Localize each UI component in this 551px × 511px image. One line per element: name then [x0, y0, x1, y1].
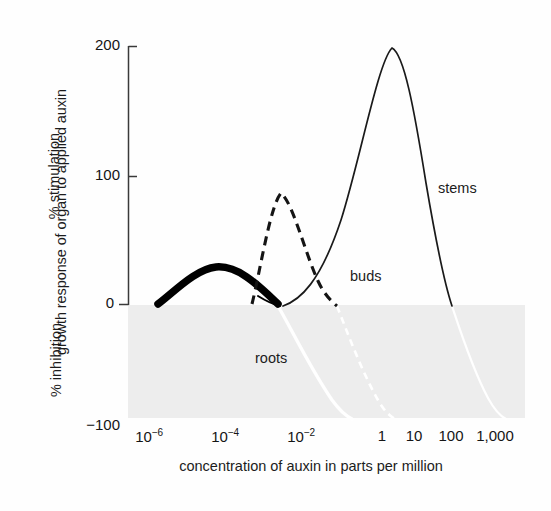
x-tick-label-1e-6: 10−6: [119, 427, 179, 445]
x-tick-exponent-1e-6: −6: [152, 427, 163, 438]
x-tick-label-1000: 1,000: [466, 427, 524, 444]
x-tick-mantissa-1e-6: 10: [135, 428, 152, 445]
x-tick-mantissa-1e-4: 10: [211, 428, 228, 445]
y-tick-label-0: 0: [62, 294, 114, 311]
y-axis-subtitle-stimulation: % stimulation: [46, 96, 62, 256]
x-tick-mantissa-1e-2: 10: [287, 428, 304, 445]
x-tick-label-1e-2: 10−2: [271, 427, 331, 445]
series-label-stems: stems: [438, 180, 477, 196]
series-label-roots: roots: [255, 350, 287, 366]
y-tick-label-200: 200: [62, 36, 120, 53]
chart-figure: growth response of organ to applied auxi…: [0, 0, 551, 511]
x-tick-exponent-1e-2: −2: [304, 427, 315, 438]
x-tick-label-1e-4: 10−4: [195, 427, 255, 445]
inhibition-shaded-region: [128, 305, 525, 418]
x-axis-title: concentration of auxin in parts per mill…: [96, 458, 526, 474]
x-tick-exponent-1e-4: −4: [228, 427, 239, 438]
series-label-buds: buds: [350, 268, 381, 284]
y-tick-label-100: 100: [62, 166, 120, 183]
y-axis-subtitle-inhibition: % inhibition: [48, 290, 64, 430]
y-tick-label-minus-100: −100: [52, 416, 120, 433]
